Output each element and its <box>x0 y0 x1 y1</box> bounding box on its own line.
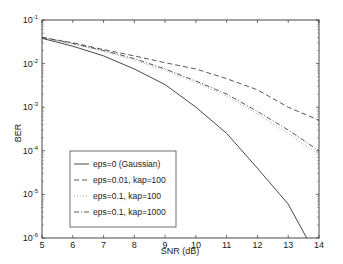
x-tick-label: 14 <box>314 240 324 250</box>
legend-entry: eps=0.1, kap=100 <box>93 191 161 201</box>
ber-chart: 56789101112131410-110-210-310-410-510-6 … <box>0 0 343 264</box>
legend: eps=0 (Gaussian)eps=0.01, kap=100eps=0.1… <box>70 151 176 227</box>
legend-entry: eps=0 (Gaussian) <box>93 159 160 169</box>
legend-entry: eps=0.01, kap=100 <box>93 175 166 185</box>
y-axis-label: BER <box>13 123 23 142</box>
x-tick-label: 6 <box>70 240 75 250</box>
y-tick-label: 10-6 <box>23 232 39 243</box>
x-tick-label: 8 <box>132 240 137 250</box>
y-tick-label: 10-1 <box>23 14 39 25</box>
x-tick-label: 13 <box>283 240 293 250</box>
y-tick-label: 10-5 <box>23 188 39 199</box>
x-tick-label: 12 <box>252 240 262 250</box>
legend-entry: eps=0.1, kap=1000 <box>93 207 166 217</box>
x-axis-label: SNR (dB) <box>161 246 200 256</box>
y-tick-label: 10-4 <box>23 145 39 156</box>
y-tick-label: 10-3 <box>23 101 39 112</box>
x-tick-label: 7 <box>101 240 106 250</box>
y-tick-label: 10-2 <box>23 58 39 69</box>
x-tick-label: 11 <box>222 240 231 250</box>
x-tick-label: 5 <box>39 240 44 250</box>
